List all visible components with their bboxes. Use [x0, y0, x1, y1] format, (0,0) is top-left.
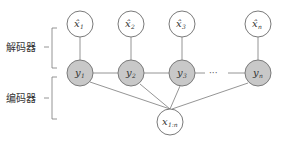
node-y3: y 3 — [169, 60, 195, 86]
svg-text:2: 2 — [130, 23, 135, 30]
node-x1n: x 1:n — [157, 109, 183, 135]
svg-text:n: n — [258, 23, 262, 30]
svg-text:y: y — [176, 67, 183, 78]
svg-text:1: 1 — [81, 72, 85, 79]
rnn-encoder-decoder-diagram: 解码器 编码器 ··· x̂ 1 x̂ 2 x̂ 3 x̂ n — [0, 0, 283, 141]
encoder-bracket — [52, 77, 57, 119]
node-xhat3: x̂ 3 — [169, 11, 195, 37]
decoder-label: 解码器 — [6, 41, 36, 53]
svg-text:1:n: 1:n — [168, 121, 178, 128]
svg-text:n: n — [259, 72, 263, 79]
edge-x-yn — [172, 83, 248, 109]
svg-text:3: 3 — [183, 72, 187, 79]
encoder-label: 编码器 — [6, 92, 36, 104]
node-xhat2: x̂ 2 — [118, 11, 144, 37]
svg-text:y: y — [74, 67, 81, 78]
svg-text:1: 1 — [80, 23, 84, 30]
node-xhatn: x̂ n — [245, 11, 271, 37]
svg-text:y: y — [125, 67, 132, 78]
svg-text:3: 3 — [182, 23, 186, 30]
node-yn: y n — [245, 60, 271, 86]
node-xhat1: x̂ 1 — [67, 11, 93, 37]
svg-text:2: 2 — [131, 72, 136, 79]
node-y2: y 2 — [118, 60, 144, 86]
ellipsis: ··· — [209, 68, 218, 78]
svg-text:y: y — [252, 67, 259, 78]
edge-x-y3 — [170, 86, 180, 109]
node-y1: y 1 — [67, 60, 93, 86]
decoder-bracket — [52, 28, 57, 68]
edge-x-y2 — [140, 84, 170, 109]
